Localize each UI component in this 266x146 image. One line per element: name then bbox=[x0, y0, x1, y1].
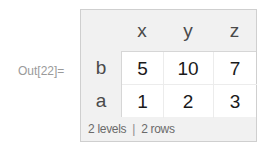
notebook-output-cell: Out[22]= x y z b a 5 10 7 1 2 3 2 levels… bbox=[0, 0, 266, 146]
column-header-x[interactable]: x bbox=[121, 10, 163, 51]
row-header-b[interactable]: b bbox=[81, 51, 121, 84]
levels-count: 2 levels bbox=[88, 122, 126, 136]
dataset-footer: 2 levels|2 rows bbox=[81, 117, 256, 141]
row-header-a[interactable]: a bbox=[81, 84, 121, 117]
footer-separator: | bbox=[132, 117, 135, 141]
column-header-y[interactable]: y bbox=[163, 10, 213, 51]
table-cell[interactable]: 2 bbox=[163, 85, 213, 118]
column-header-z[interactable]: z bbox=[213, 10, 256, 51]
table-cell[interactable]: 7 bbox=[213, 52, 257, 85]
dataset-body: 5 10 7 1 2 3 bbox=[121, 51, 256, 117]
table-cell[interactable]: 3 bbox=[213, 85, 257, 118]
table-cell[interactable]: 5 bbox=[122, 52, 163, 85]
table-cell[interactable]: 1 bbox=[122, 85, 163, 118]
output-label: Out[22]= bbox=[18, 64, 64, 78]
table-cell[interactable]: 10 bbox=[163, 52, 213, 85]
dataset-table[interactable]: x y z b a 5 10 7 1 2 3 2 levels|2 rows bbox=[80, 9, 257, 142]
rows-count: 2 rows bbox=[141, 122, 175, 136]
